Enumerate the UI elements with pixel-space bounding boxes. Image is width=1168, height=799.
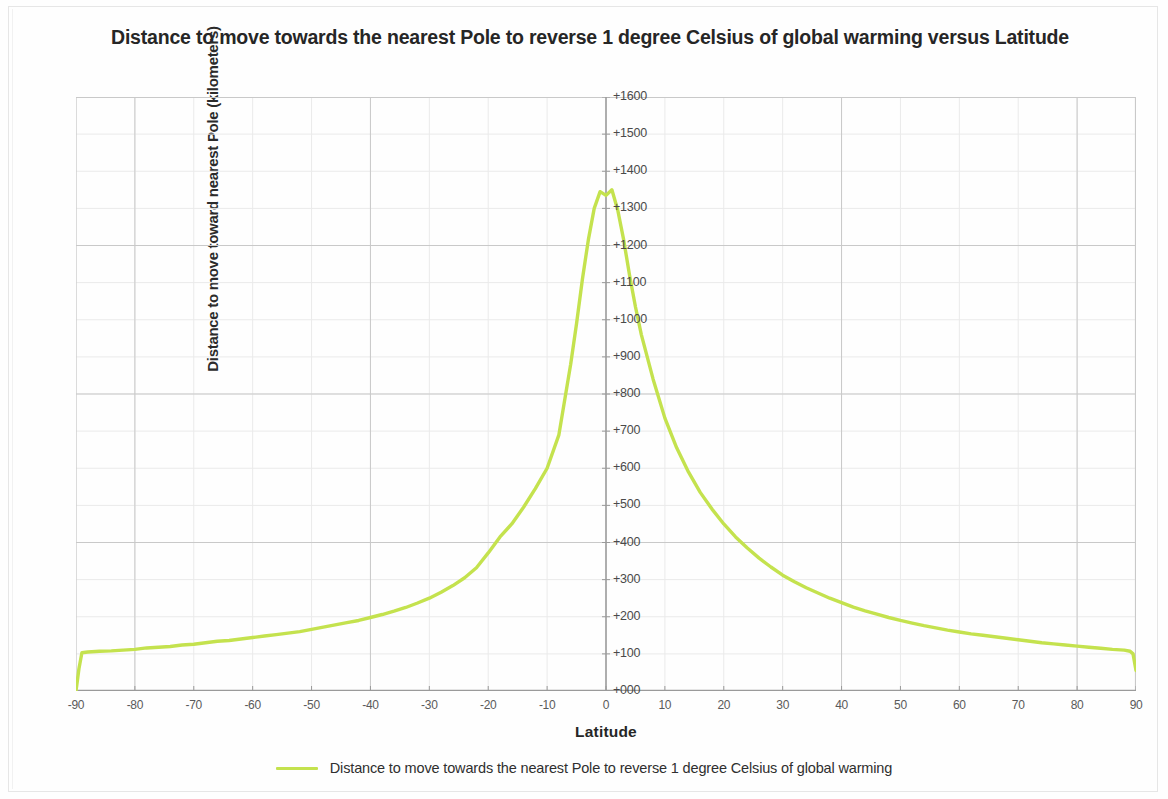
x-tick-label: -30 [406,698,452,712]
x-tick-label: -60 [230,698,276,712]
y-tick-label: +700 [613,423,669,437]
y-tick-label: +1400 [613,163,669,177]
y-tick-label: +800 [613,386,669,400]
x-tick-label: -20 [465,698,511,712]
x-tick-label: -40 [347,698,393,712]
x-tick-label: 60 [936,698,982,712]
chart-legend: Distance to move towards the nearest Pol… [0,760,1168,776]
x-tick-label: -80 [112,698,158,712]
chart-page: Distance to move towards the nearest Pol… [0,0,1168,799]
y-tick-label: +000 [613,683,669,697]
x-tick-label: 0 [583,698,629,712]
y-tick-label: +1100 [613,275,669,289]
y-tick-label: +1500 [613,126,669,140]
y-tick-label: +400 [613,535,669,549]
x-tick-label: -90 [53,698,99,712]
y-tick-label: +200 [613,609,669,623]
y-tick-label: +100 [613,646,669,660]
y-tick-label: +1000 [613,312,669,326]
legend-series-label: Distance to move towards the nearest Pol… [330,760,892,776]
x-tick-label: 30 [760,698,806,712]
x-tick-label: 10 [642,698,688,712]
page-title: Distance to move towards the nearest Pol… [90,24,1090,51]
x-tick-label: -10 [524,698,570,712]
y-tick-label: +900 [613,349,669,363]
x-tick-label: 90 [1113,698,1159,712]
x-axis-title: Latitude [76,723,1136,741]
y-tick-label: +600 [613,460,669,474]
y-tick-label: +1300 [613,200,669,214]
x-tick-label: 50 [877,698,923,712]
y-tick-label: +1600 [613,89,669,103]
x-tick-label: 80 [1054,698,1100,712]
chart-canvas [76,97,1136,691]
y-tick-label: +500 [613,497,669,511]
x-tick-label: -50 [289,698,335,712]
plot-area [76,97,1136,691]
y-tick-label: +300 [613,572,669,586]
x-tick-label: 70 [995,698,1041,712]
legend-color-swatch [276,767,318,770]
y-tick-label: +1200 [613,238,669,252]
x-tick-label: 20 [701,698,747,712]
x-tick-label: -70 [171,698,217,712]
x-tick-label: 40 [819,698,865,712]
